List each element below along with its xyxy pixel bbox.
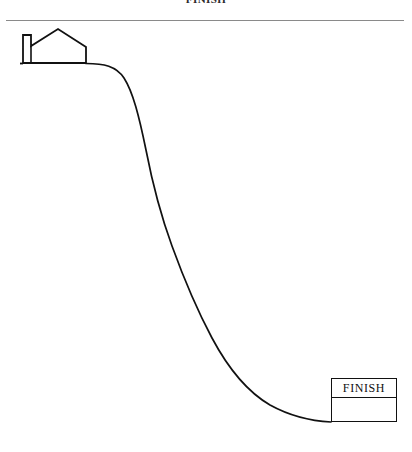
diagram-page: FINISH FINISH (0, 0, 412, 452)
finish-label-text: FINISH (343, 382, 385, 394)
finish-body-cell (332, 398, 396, 421)
house-outline (23, 29, 86, 63)
house-illustration (20, 29, 86, 64)
descent-curve (86, 64, 331, 423)
finish-label-cell: FINISH (332, 379, 396, 398)
finish-box: FINISH (331, 378, 397, 422)
